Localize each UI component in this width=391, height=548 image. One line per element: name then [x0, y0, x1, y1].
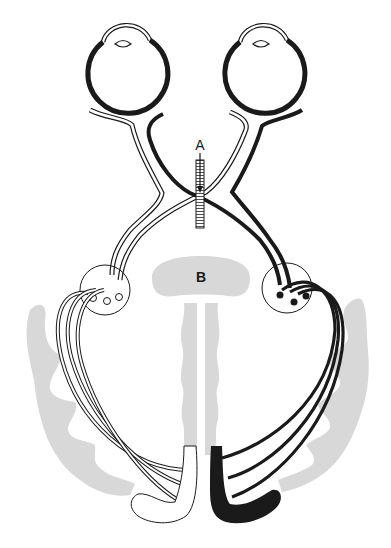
right-eye-cornea: [240, 25, 287, 42]
right-eye-sclera: [225, 40, 305, 113]
midline-left-stem: [181, 303, 197, 455]
right-eye: [225, 25, 305, 113]
relay-cell: [291, 299, 298, 306]
relay-cell: [277, 292, 284, 299]
left-eye-sclera: [88, 40, 168, 113]
left-eye-lens: [115, 41, 131, 48]
relay-cell: [116, 294, 123, 301]
right-eye-lens: [253, 41, 269, 48]
white-pathway: [90, 110, 246, 280]
visual-pathway-diagram: A B: [0, 0, 391, 548]
relay-cell: [104, 298, 111, 305]
relay-cell: [303, 293, 310, 300]
chiasm-cut: A: [195, 137, 205, 228]
right-hemisphere-shading: [278, 298, 369, 492]
left-eye: [88, 25, 168, 113]
midline-right-stem: [205, 303, 219, 455]
left-eye-cornea: [103, 25, 150, 42]
label-a: A: [195, 137, 205, 153]
label-b: B: [196, 269, 206, 285]
